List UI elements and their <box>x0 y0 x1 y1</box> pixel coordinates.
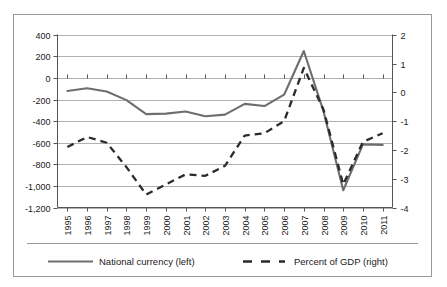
x-axis-tick-label: 2001 <box>182 216 192 236</box>
x-axis-tick-label: 2008 <box>320 216 330 236</box>
left-axis-ticks <box>54 36 58 209</box>
x-axis-tick-label: 2007 <box>300 216 310 236</box>
x-axis-tick-label: 2009 <box>339 216 349 236</box>
x-axis-tick-label: 2002 <box>201 216 211 236</box>
left-axis-tick-label: -400 <box>32 117 50 127</box>
left-axis-tick-label: -1,200 <box>25 204 51 214</box>
x-axis-tick-label: 2004 <box>241 216 251 236</box>
chart-legend: National currency (left)Percent of GDP (… <box>48 256 388 267</box>
left-axis-tick-label: -600 <box>32 139 50 149</box>
x-axis-labels: 1995199619971998199920002001200220032004… <box>63 216 389 236</box>
x-axis-tick-label: 2003 <box>221 216 231 236</box>
right-axis-labels: 210-1-2-3-4 <box>401 31 409 214</box>
x-axis-tick-label: 2006 <box>280 216 290 236</box>
left-axis-tick-label: 400 <box>35 31 50 41</box>
legend-label: National currency (left) <box>99 256 195 267</box>
left-axis-tick-label: -200 <box>32 96 50 106</box>
left-axis-tick-label: -1,000 <box>25 182 51 192</box>
right-axis-tick-label: 1 <box>401 60 406 70</box>
x-axis-tick-label: 2011 <box>379 216 389 235</box>
right-axis-tick-label: -3 <box>401 175 409 185</box>
series-line-national-currency <box>67 51 382 190</box>
left-axis-tick-label: 200 <box>35 52 50 62</box>
x-axis-tick-label: 1998 <box>122 216 132 236</box>
x-axis-tick-label: 2000 <box>162 216 172 236</box>
x-axis-tick-label: 1996 <box>83 216 93 236</box>
right-axis-tick-label: 2 <box>401 31 406 41</box>
left-axis-labels: 4002000-200-400-600-800-1,000-1,200 <box>25 31 51 214</box>
x-axis-tick-label: 2005 <box>260 216 270 236</box>
chart-plot-svg: 4002000-200-400-600-800-1,000-1,200 210-… <box>0 0 447 287</box>
right-axis-tick-label: -2 <box>401 146 409 156</box>
left-axis-tick-label: 0 <box>45 74 50 84</box>
right-axis-tick-label: 0 <box>401 88 406 98</box>
x-axis-tick-label: 1997 <box>103 216 113 236</box>
right-axis-tick-label: -4 <box>401 204 409 214</box>
left-axis-tick-label: -800 <box>32 160 50 170</box>
right-axis-tick-label: -1 <box>401 117 409 127</box>
chart-figure: 4002000-200-400-600-800-1,000-1,200 210-… <box>0 0 447 287</box>
x-axis-tick-label: 2010 <box>359 216 369 236</box>
right-axis-ticks <box>393 36 397 209</box>
x-axis-tick-label: 1995 <box>63 216 73 236</box>
legend-label: Percent of GDP (right) <box>294 256 388 267</box>
series-line-percent-of-gdp <box>67 68 382 195</box>
x-axis-tick-label: 1999 <box>142 216 152 236</box>
